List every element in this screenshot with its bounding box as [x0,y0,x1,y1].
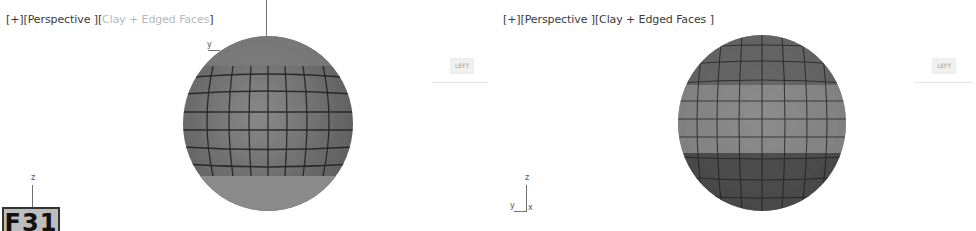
viewport-menu-plus[interactable]: [+] [6,13,24,26]
shading-bracket-close: ] [209,13,213,26]
sphere-object[interactable] [678,35,846,211]
sphere-mesh-icon [183,36,353,211]
world-z-axis-line [526,185,527,211]
gizmo-z-axis-line [266,0,267,38]
sphere-object[interactable] [183,36,353,211]
gizmo-x-label: x [528,203,533,212]
viewcube[interactable]: LEFT [928,56,958,78]
world-y-axis-line [514,211,527,212]
viewport-label: [+][Perspective ][Clay + Edged Faces] [6,13,213,26]
viewcube-face-left[interactable]: LEFT [450,58,474,74]
viewport-left[interactable]: [+][Perspective ][Clay + Edged Faces] y [0,0,488,231]
figure-badge: F31 [2,207,60,231]
viewcube-face-left[interactable]: LEFT [932,58,956,74]
sphere-mesh-icon [678,35,846,211]
gizmo-y-axis-line [208,50,220,51]
gizmo-y-label: y [207,40,212,49]
gizmo-z-label: z [525,173,529,182]
viewport-view-menu[interactable]: [Perspective ] [521,13,595,26]
shading-menu[interactable]: Clay + Edged Faces [102,13,209,26]
viewcube-ring[interactable] [914,82,972,83]
viewcube[interactable]: LEFT [446,56,476,78]
viewport-right[interactable]: [+][Perspective ][Clay + Edged Faces ] [488,0,976,231]
world-z-axis-line [32,185,33,207]
gizmo-y-label: y [510,201,515,210]
viewcube-ring[interactable] [432,82,488,83]
shading-menu[interactable]: [Clay + Edged Faces ] [595,13,714,26]
viewport-label: [+][Perspective ][Clay + Edged Faces ] [503,13,714,26]
viewport-view-menu[interactable]: [Perspective ] [24,13,98,26]
gizmo-z-label: z [31,173,35,182]
viewport-menu-plus[interactable]: [+] [503,13,521,26]
